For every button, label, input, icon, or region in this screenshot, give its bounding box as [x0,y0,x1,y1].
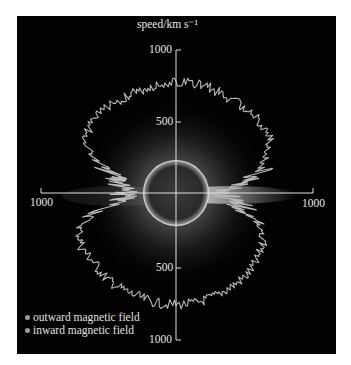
tick-left-1000: 1000 [30,197,53,209]
radial-axis-title: speed/km s⁻¹ [137,19,198,31]
legend: outward magnetic field inward magnetic f… [25,311,140,337]
tick-bottom-1000: 1000 [149,334,172,346]
legend-item-outward: outward magnetic field [25,311,140,324]
legend-marker-icon [25,315,30,320]
legend-label: inward magnetic field [33,324,134,337]
chart-panel: speed/km s⁻¹ 1000 500 500 1000 1000 1000… [17,16,336,354]
legend-marker-icon [25,328,30,333]
tick-bottom-500: 500 [156,262,173,274]
tick-top-500: 500 [156,116,173,128]
legend-label: outward magnetic field [33,311,140,324]
legend-item-inward: inward magnetic field [25,324,140,337]
tick-top-1000: 1000 [149,44,172,56]
polar-plot [17,16,336,354]
tick-right-1000: 1000 [302,198,325,210]
